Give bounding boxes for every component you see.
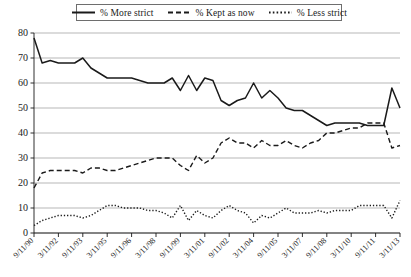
series-line-dotted (34, 201, 400, 226)
gridlines (34, 33, 400, 233)
y-tick-label: 80 (18, 27, 28, 38)
x-tick-label: 3/11/98 (134, 236, 158, 260)
x-tick-label: 3/11/13 (378, 236, 402, 260)
x-tick-label: 3/11/10 (329, 236, 353, 260)
x-tick-label: 9/11/11 (353, 236, 377, 260)
y-tick-label: 30 (18, 152, 28, 163)
x-tick-label: 3/11/07 (280, 236, 304, 260)
data-series-group (34, 38, 400, 226)
plot-area: 01020304050607080 9/11/903/11/929/11/933… (0, 0, 411, 277)
plot-svg: 01020304050607080 9/11/903/11/929/11/933… (0, 0, 411, 277)
x-tick-label: 9/11/90 (12, 236, 36, 260)
y-tick-label: 60 (18, 77, 28, 88)
y-axis-ticks (31, 33, 35, 233)
x-tick-label: 9/11/05 (256, 236, 280, 260)
y-tick-label: 40 (18, 127, 28, 138)
y-axis-labels: 01020304050607080 (18, 27, 28, 238)
x-tick-label: 3/11/95 (85, 236, 109, 260)
x-tick-label: 9/11/08 (304, 236, 328, 260)
y-tick-label: 10 (18, 202, 28, 213)
x-tick-label: 3/11/92 (36, 236, 60, 260)
x-axis-labels: 9/11/903/11/929/11/933/11/959/11/963/11/… (12, 236, 402, 260)
x-tick-label: 9/11/93 (60, 236, 84, 260)
y-tick-label: 70 (18, 52, 28, 63)
x-tick-label: 9/11/02 (207, 236, 231, 260)
x-tick-label: 3/11/01 (182, 236, 206, 260)
y-tick-label: 50 (18, 102, 28, 113)
x-tick-label: 9/11/96 (109, 236, 133, 260)
poll-line-chart: % More strict % Kept as now % Less stric… (0, 0, 411, 277)
series-line-solid (34, 38, 400, 126)
x-tick-label: 3/11/04 (231, 236, 255, 260)
y-tick-label: 20 (18, 177, 28, 188)
x-tick-label: 9/11/99 (158, 236, 182, 260)
